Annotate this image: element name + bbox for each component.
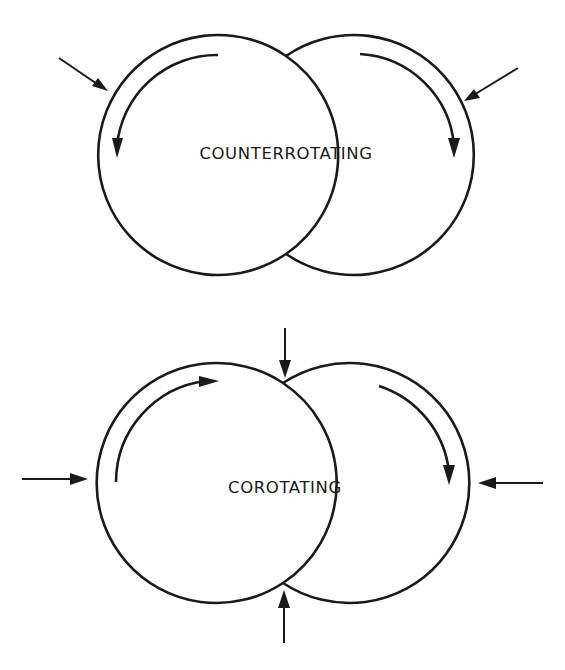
external-arrow-bottom xyxy=(278,590,290,643)
counterrotating-label: COUNTERROTATING xyxy=(199,144,372,163)
arrow-right-down-icon xyxy=(92,78,108,91)
corotating-panel: COROTATING xyxy=(22,328,543,643)
left-lobe-flow-arrow xyxy=(112,55,218,158)
arrowhead-down-icon xyxy=(448,138,460,158)
left-lobe-flow-arrow xyxy=(116,376,219,482)
right-lobe-flow-arrow xyxy=(360,54,460,158)
arrowhead-right-icon xyxy=(199,376,219,387)
external-arrow-left xyxy=(22,473,88,485)
corotating-label: COROTATING xyxy=(228,478,342,497)
arrowhead-down-icon xyxy=(443,465,455,485)
external-arrow-upper-left xyxy=(59,58,108,91)
external-arrow-upper-right xyxy=(464,68,518,101)
arrow-down-icon xyxy=(279,360,291,378)
diagram-canvas: COUNTERROTATING xyxy=(0,0,565,670)
arrow-up-icon xyxy=(278,590,290,608)
arrow-left-down-icon xyxy=(464,89,480,101)
arrow-right-icon xyxy=(70,473,88,485)
arrowhead-down-icon xyxy=(112,138,123,158)
right-lobe-flow-arrow xyxy=(379,386,455,485)
counterrotating-panel: COUNTERROTATING xyxy=(59,35,518,275)
external-arrow-top xyxy=(279,328,291,378)
external-arrow-right xyxy=(478,477,543,489)
arrow-left-icon xyxy=(478,477,496,489)
